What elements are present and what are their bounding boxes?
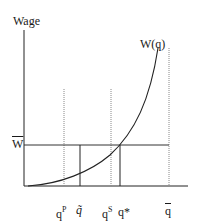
- q-p-label: qP: [56, 206, 66, 220]
- q-bar-label: q: [165, 205, 171, 217]
- q-s-label: qS: [102, 206, 112, 220]
- q-tilde-label: q̃: [76, 204, 82, 216]
- curve-label: W(q): [140, 38, 165, 50]
- wage-curve: [28, 48, 158, 186]
- wage-level-label: W: [12, 138, 23, 150]
- wage-diagram: [0, 0, 198, 223]
- y-axis-label: Wage: [13, 15, 40, 27]
- q-star-label: q*: [118, 206, 130, 218]
